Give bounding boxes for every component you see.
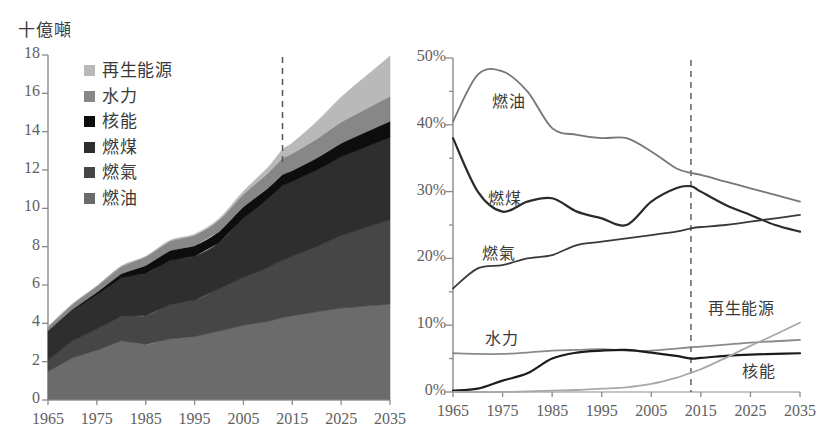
series-label-燃氣: 燃氣 [482, 240, 515, 264]
legend-swatch-nuclear [84, 116, 95, 127]
right-x-tick: 1975 [481, 402, 525, 420]
left-x-tick: 1975 [75, 410, 119, 428]
legend-item: 核能 [84, 109, 172, 135]
right-y-tick: 10% [398, 314, 446, 332]
legend-label-nuclear: 核能 [102, 113, 137, 130]
right-y-tick: 20% [398, 247, 446, 265]
left-y-tick: 12 [0, 159, 40, 177]
legend-label-gas: 燃氣 [102, 164, 137, 181]
series-label-燃油: 燃油 [492, 88, 525, 112]
legend-swatch-hydro [84, 91, 95, 102]
left-y-tick: 2 [0, 351, 40, 369]
left-x-tick: 1995 [173, 410, 217, 428]
left-x-tick: 2015 [270, 410, 314, 428]
left-y-tick: 4 [0, 312, 40, 330]
left-y-tick: 10 [0, 197, 40, 215]
right-x-tick: 2035 [778, 402, 821, 420]
legend-swatch-renewables [84, 65, 95, 76]
right-x-tick: 1965 [431, 402, 475, 420]
right-x-tick: 2005 [629, 402, 673, 420]
left-y-tick: 16 [0, 82, 40, 100]
left-y-tick: 18 [0, 44, 40, 62]
legend-item: 水力 [84, 84, 172, 110]
left-y-tick: 0 [0, 389, 40, 407]
right-x-tick: 2015 [679, 402, 723, 420]
legend-item: 燃油 [84, 186, 172, 212]
legend-swatch-gas [84, 167, 95, 178]
legend-swatch-oil [84, 193, 95, 204]
left-stacked-area-chart [0, 10, 400, 430]
right-x-tick: 2025 [728, 402, 772, 420]
legend-item: 再生能源 [84, 58, 172, 84]
legend-label-hydro: 水力 [102, 88, 137, 105]
left-x-tick: 1965 [26, 410, 70, 428]
left-y-tick: 6 [0, 274, 40, 292]
legend-label-oil: 燃油 [102, 190, 137, 207]
right-y-tick: 40% [398, 114, 446, 132]
series-label-燃煤: 燃煤 [488, 185, 521, 209]
series-label-再生能源: 再生能源 [708, 295, 774, 319]
right-x-tick: 1995 [580, 402, 624, 420]
series-label-水力: 水力 [485, 325, 518, 349]
right-y-tick: 0% [398, 381, 446, 399]
legend-item: 燃氣 [84, 160, 172, 186]
left-x-tick: 2005 [221, 410, 265, 428]
right-y-tick: 50% [398, 47, 446, 65]
left-y-tick: 14 [0, 121, 40, 139]
left-chart-legend: 再生能源 水力 核能 燃煤 燃氣 燃油 [84, 58, 172, 211]
legend-label-renewables: 再生能源 [102, 62, 172, 79]
left-x-tick: 2025 [319, 410, 363, 428]
right-x-tick: 1985 [530, 402, 574, 420]
left-y-tick: 8 [0, 236, 40, 254]
left-x-tick: 1985 [124, 410, 168, 428]
legend-label-coal: 燃煤 [102, 139, 137, 156]
legend-item: 燃煤 [84, 135, 172, 161]
legend-swatch-coal [84, 142, 95, 153]
series-label-核能: 核能 [742, 358, 775, 382]
right-y-tick: 30% [398, 181, 446, 199]
